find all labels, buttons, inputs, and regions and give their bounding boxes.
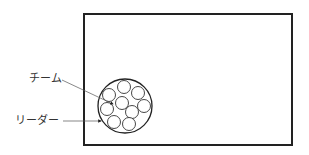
member-circles bbox=[101, 81, 151, 131]
member-circle bbox=[118, 81, 131, 94]
leader-label: リーダー bbox=[15, 115, 59, 126]
member-circle bbox=[123, 118, 136, 131]
member-circle bbox=[116, 97, 129, 110]
team-label: チーム bbox=[29, 73, 62, 84]
member-circle bbox=[138, 100, 151, 113]
member-circle bbox=[103, 89, 116, 102]
diagram-canvas: チーム リーダー bbox=[0, 0, 309, 155]
member-circle bbox=[108, 116, 121, 129]
member-circle bbox=[126, 106, 139, 119]
member-circle bbox=[101, 103, 114, 116]
member-circle bbox=[132, 87, 145, 100]
